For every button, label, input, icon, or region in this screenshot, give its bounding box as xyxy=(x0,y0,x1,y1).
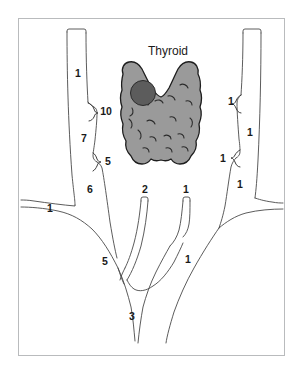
left-inner-vessel xyxy=(88,102,117,258)
center-left-vessel xyxy=(125,197,148,280)
label-center-trunk-3: 3 xyxy=(129,310,135,322)
center-right-vessel xyxy=(170,197,190,246)
thyroid-gland-shape xyxy=(121,62,202,164)
label-left-brace-10: 10 xyxy=(100,105,112,117)
label-left-segment-7: 7 xyxy=(81,132,87,144)
label-center-vessel-2: 2 xyxy=(142,183,148,195)
anatomical-diagram: Thyroid 1 10 7 5 6 1 1 1 1 1 2 1 5 1 3 xyxy=(0,0,302,379)
label-left-segment-6: 6 xyxy=(87,183,93,195)
right-descending-trunk xyxy=(166,228,219,343)
label-left-upper-vessel: 1 xyxy=(75,67,81,79)
center-descending-trunk xyxy=(138,246,170,343)
right-outer-vessel xyxy=(241,29,261,198)
label-left-brace-5: 5 xyxy=(105,155,111,167)
figure-root: Thyroid 1 10 7 5 6 1 1 1 1 1 2 1 5 1 3 xyxy=(0,0,302,379)
right-lateral-branch xyxy=(219,198,283,228)
label-center-branch-1: 1 xyxy=(185,253,191,265)
label-center-branch-5: 5 xyxy=(102,255,108,267)
label-right-brace-1-lower: 1 xyxy=(220,152,226,164)
left-lateral-branch xyxy=(21,200,135,341)
label-left-outer-branch-1: 1 xyxy=(47,202,53,214)
thyroid-nodule-shape xyxy=(131,81,156,106)
thyroid-title-label: Thyroid xyxy=(148,44,188,58)
left-outer-vessel xyxy=(67,29,88,205)
label-right-segment-1-low: 1 xyxy=(237,178,243,190)
label-right-segment-1-mid: 1 xyxy=(247,126,253,138)
label-center-vessel-1: 1 xyxy=(183,183,189,195)
label-right-brace-1-upper: 1 xyxy=(228,95,234,107)
